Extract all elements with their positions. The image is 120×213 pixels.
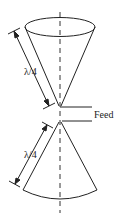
biconical-antenna-diagram: Feed λ/4 λ/4	[0, 0, 120, 213]
top-dimension-arrow-start-icon	[14, 31, 19, 38]
bottom-dimension-arrow-start-icon	[42, 125, 47, 131]
top-cone-right-side	[61, 27, 95, 106]
top-length-label: λ/4	[24, 66, 37, 77]
feed-lines	[60, 107, 92, 121]
bottom-dimension-arrow-end-icon	[15, 178, 20, 184]
bottom-cone-right-side	[61, 122, 97, 190]
bottom-length-label: λ/4	[24, 149, 37, 160]
feed-label: Feed	[94, 109, 113, 120]
top-dimension-arrow-end-icon	[44, 99, 49, 106]
